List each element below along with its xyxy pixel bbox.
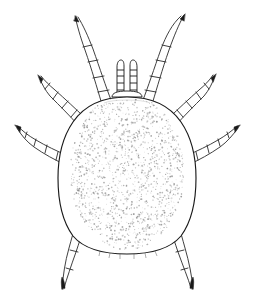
idiosoma (58, 95, 196, 259)
figure-root (0, 0, 256, 307)
mite-illustration (0, 0, 256, 307)
basis-capituli (112, 91, 142, 97)
